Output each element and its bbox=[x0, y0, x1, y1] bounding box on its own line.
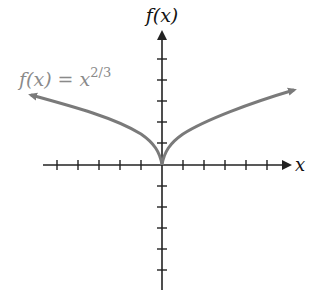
function-graph: f(x) x f(x) = x2/3 bbox=[0, 0, 321, 297]
curve-right-branch bbox=[162, 90, 294, 165]
function-label-base: f(x) = x bbox=[17, 68, 91, 90]
function-label-exponent: 2/3 bbox=[90, 65, 111, 80]
y-axis-label: f(x) bbox=[144, 4, 179, 26]
function-label: f(x) = x2/3 bbox=[17, 65, 111, 90]
x-axis-label: x bbox=[295, 154, 305, 175]
curve-left-branch bbox=[31, 95, 162, 165]
